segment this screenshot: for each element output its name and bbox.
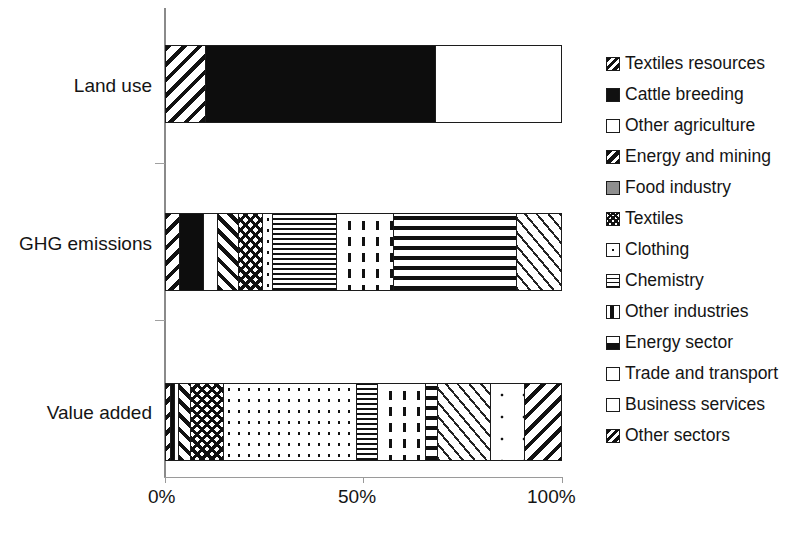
bar-segment <box>378 384 426 460</box>
x-axis-tick-50 <box>363 477 364 483</box>
y-axis-labels: Land use GHG emissions Value added <box>0 0 152 540</box>
bar-segment <box>166 46 206 122</box>
swatch-vertical-dash-icon <box>606 305 620 319</box>
swatch-grey-solid-icon <box>606 181 620 195</box>
legend-label: Energy and mining <box>625 148 771 166</box>
swatch-white-icon <box>606 367 620 381</box>
bar-segment <box>517 214 562 290</box>
y-axis-label-ghg-emissions: GHG emissions <box>19 233 152 255</box>
bar-segment <box>525 384 562 460</box>
x-axis-label-100: 100% <box>527 486 576 508</box>
swatch-white-icon <box>606 398 620 412</box>
bar-segment <box>263 214 273 290</box>
bar-segment <box>337 214 395 290</box>
y-axis-label-land-use: Land use <box>74 75 152 97</box>
swatch-thick-horizontal-icon <box>606 336 620 350</box>
legend-item-cattle-breeding[interactable]: Cattle breeding <box>606 79 799 110</box>
bar-segment <box>426 384 438 460</box>
legend-label: Chemistry <box>625 272 704 290</box>
swatch-diagonal-hatch-dense-icon <box>606 150 620 164</box>
bar-segment <box>491 384 525 460</box>
y-axis-separator-tick-1 <box>155 163 165 164</box>
legend-label: Trade and transport <box>625 365 778 383</box>
legend-label: Clothing <box>625 241 689 259</box>
legend-item-business-services[interactable]: Business services <box>606 389 799 420</box>
swatch-diagonal-hatch-back-icon <box>606 429 620 443</box>
legend-item-trade-and-transport[interactable]: Trade and transport <box>606 358 799 389</box>
bar-segment <box>357 384 379 460</box>
legend-item-chemistry[interactable]: Chemistry <box>606 265 799 296</box>
legend-label: Cattle breeding <box>625 86 744 104</box>
swatch-center-dot-icon <box>606 243 620 257</box>
x-axis-label-50: 50% <box>338 486 376 508</box>
legend-label: Business services <box>625 396 765 414</box>
x-axis-tick-100 <box>562 477 563 483</box>
legend-item-textiles-resources[interactable]: Textiles resources <box>606 48 799 79</box>
bar-segment <box>166 214 180 290</box>
bar-segment <box>191 384 224 460</box>
legend-item-other-agriculture[interactable]: Other agriculture <box>606 110 799 141</box>
y-axis-separator-tick-2 <box>155 320 165 321</box>
legend-item-energy-sector[interactable]: Energy sector <box>606 327 799 358</box>
legend-item-energy-and-mining[interactable]: Energy and mining <box>606 141 799 172</box>
swatch-cross-hatch-icon <box>606 212 620 226</box>
bar-segment <box>436 46 562 122</box>
legend-item-textiles[interactable]: Textiles <box>606 203 799 234</box>
bar-segment <box>218 214 240 290</box>
x-axis-tick-0 <box>165 477 166 483</box>
legend-label: Food industry <box>625 179 731 197</box>
legend-label: Textiles <box>625 210 683 228</box>
legend-label: Energy sector <box>625 334 733 352</box>
bar-ghg-emissions <box>165 213 562 291</box>
legend-label: Other industries <box>625 303 749 321</box>
bar-segment <box>180 214 204 290</box>
swatch-diagonal-hatch-back-icon <box>606 57 620 71</box>
legend-label: Textiles resources <box>625 55 765 73</box>
bar-segment <box>438 384 492 460</box>
y-axis-label-value-added: Value added <box>47 402 152 424</box>
legend-label: Other agriculture <box>625 117 755 135</box>
bar-segment <box>204 214 218 290</box>
bar-land-use <box>165 45 562 123</box>
legend-item-other-sectors[interactable]: Other sectors <box>606 420 799 451</box>
legend-item-clothing[interactable]: Clothing <box>606 234 799 265</box>
bar-value-added <box>165 383 562 461</box>
legend-label: Other sectors <box>625 427 730 445</box>
bar-segment <box>206 46 436 122</box>
bar-segment <box>239 214 263 290</box>
bar-segment <box>394 214 517 290</box>
bar-segment <box>273 214 337 290</box>
x-axis-label-0: 0% <box>148 486 175 508</box>
stacked-bar-chart: 0% 50% 100% Land use GHG emissions Value… <box>0 0 799 540</box>
legend-item-other-industries[interactable]: Other industries <box>606 296 799 327</box>
swatch-white-icon <box>606 119 620 133</box>
bar-segment <box>179 384 190 460</box>
swatch-solid-black-icon <box>606 88 620 102</box>
legend-item-food-industry[interactable]: Food industry <box>606 172 799 203</box>
swatch-horizontal-lines-icon <box>606 274 620 288</box>
legend: Textiles resources Cattle breeding Other… <box>606 48 799 451</box>
bar-segment <box>224 384 357 460</box>
